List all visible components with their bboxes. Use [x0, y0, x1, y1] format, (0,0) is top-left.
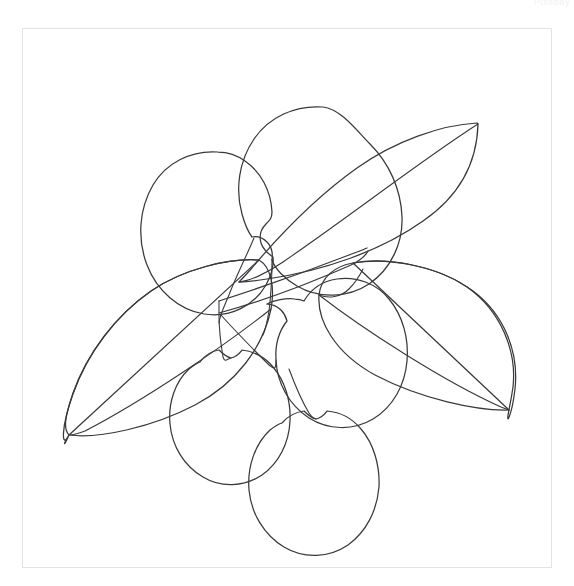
cherry-stems-icon — [219, 238, 363, 419]
cherry-lower-left-icon — [170, 350, 290, 485]
leaf-lower-right-icon — [319, 261, 516, 419]
cherry-bottom-icon — [249, 411, 379, 555]
cherry-middle-right-icon — [267, 278, 407, 427]
watermark-text: Pixabay — [534, 0, 570, 7]
cherry-branch-line-drawing — [23, 29, 553, 569]
leaf-upper-right-icon — [239, 123, 478, 282]
cherry-top-center-icon — [239, 107, 402, 295]
artwork-canvas-frame — [22, 28, 552, 568]
screenshot-page: Pixabay — [0, 0, 574, 586]
